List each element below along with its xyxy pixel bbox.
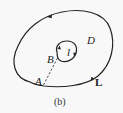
- inner-curve-arrow-left: [58, 46, 61, 50]
- label-point-A: A: [35, 76, 42, 87]
- label-outer-curve-L: L: [95, 77, 102, 88]
- label-point-B: B: [47, 54, 54, 65]
- label-inner-curve-l: l: [67, 47, 70, 58]
- diagram-canvas: D L l A B (b): [0, 0, 123, 113]
- figure-caption: (b): [54, 97, 66, 107]
- label-region-D: D: [87, 35, 95, 46]
